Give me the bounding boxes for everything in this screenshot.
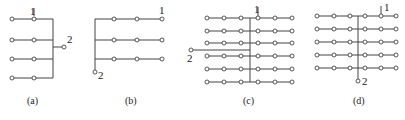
terminal-2-label: 2: [187, 52, 193, 64]
terminal-2-label: 2: [362, 75, 368, 87]
panel-c: 1 2 (c): [187, 3, 294, 107]
terminal-2-label: 2: [67, 33, 73, 45]
caption-c: (c): [243, 95, 254, 107]
panel-a: 1 2 (a): [10, 5, 73, 107]
terminal-1-label: 1: [30, 5, 36, 17]
caption-a: (a): [27, 95, 38, 107]
grid-rows: [317, 16, 396, 68]
caption-d: (d): [353, 95, 365, 107]
panel-b: 1 2 (b): [93, 4, 165, 107]
terminal-1-label: 1: [159, 4, 165, 16]
terminal-1-label: 1: [254, 3, 260, 15]
network-figure: 1 2 (a) 1 2 (b): [0, 0, 405, 120]
panel-d: 1 2 (d): [315, 1, 398, 107]
caption-b: (b): [125, 95, 137, 107]
terminal-2-label: 2: [98, 69, 104, 81]
terminal-1-label: 1: [384, 1, 390, 13]
